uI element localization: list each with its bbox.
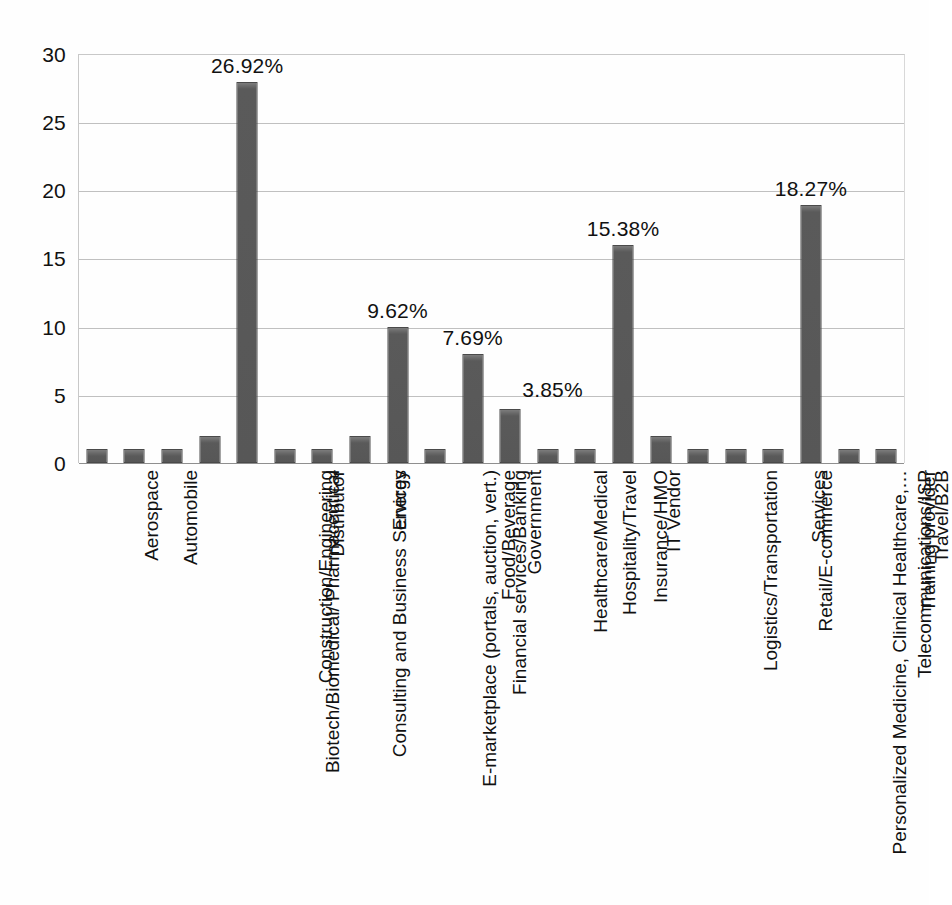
- x-tick-label: Travel/B2B: [933, 377, 952, 470]
- x-tick-label-slot: Services: [755, 470, 793, 900]
- x-tick-label: Logistics/Transportation: [761, 269, 780, 470]
- x-tick-label: Government: [525, 365, 544, 470]
- x-tick-label: Healthcare/Medical: [592, 307, 611, 470]
- x-tick-label: Energy: [390, 410, 409, 470]
- x-tick-label-slot: IT Vendor: [604, 470, 642, 900]
- bar[interactable]: [274, 449, 295, 463]
- bar[interactable]: [349, 436, 370, 463]
- x-tick-label-slot: Food/Beverage: [416, 470, 454, 900]
- x-tick-label-slot: Aerospace: [78, 470, 116, 900]
- x-tick-label-slot: Consulting and Business Services: [228, 470, 266, 900]
- x-tick-label: IT Vendor: [664, 388, 683, 470]
- bar[interactable]: [86, 449, 107, 463]
- x-tick-label-slot: Government: [454, 470, 492, 900]
- x-tick-label-slot: Insurance/HMO: [567, 470, 605, 900]
- bar-slot: [266, 54, 304, 463]
- x-tick-label-slot: Telecommunications/ISP: [792, 470, 830, 900]
- x-tick-label: E-marketplace (portals, auction, vert.): [481, 153, 500, 470]
- y-tick-label: 15: [14, 248, 66, 269]
- bar-slot: [416, 54, 454, 463]
- bar[interactable]: [237, 82, 258, 463]
- bar[interactable]: [725, 449, 746, 463]
- x-tick-label-slot: Construction/Engineering: [191, 470, 229, 900]
- x-tick-label: Hospitality/Travel: [620, 325, 639, 470]
- x-tick-label-slot: Automobile: [116, 470, 154, 900]
- y-tick-label: 10: [14, 317, 66, 338]
- x-tick-label: Food/Beverage: [500, 340, 519, 470]
- bar[interactable]: [425, 449, 446, 463]
- x-tick-label-slot: Training provider: [830, 470, 868, 900]
- bar[interactable]: [161, 449, 182, 463]
- x-tick-label: Distributor: [328, 383, 347, 470]
- x-tick-label: Personalized Medicine, Clinical Healthca…: [890, 86, 909, 470]
- x-tick-label-slot: Energy: [341, 470, 379, 900]
- y-tick-label: 0: [14, 453, 66, 474]
- x-tick-label-slot: Hospitality/Travel: [529, 470, 567, 900]
- x-tick-label-slot: Personalized Medicine, Clinical Healthca…: [679, 470, 717, 900]
- bar-slot: [717, 54, 755, 463]
- x-tick-label-slot: Biotech/Biomedical/ Pharmaceutical: [153, 470, 191, 900]
- x-tick-label-slot: Distributor: [266, 470, 304, 900]
- x-tick-label-slot: Healthcare/Medical: [492, 470, 530, 900]
- x-tick-label-slot: Retail/E-commerce: [717, 470, 755, 900]
- bar-slot: [228, 54, 266, 463]
- y-tick-label: 20: [14, 180, 66, 201]
- x-tick-label-slot: E-marketplace (portals, auction, vert.): [304, 470, 342, 900]
- y-tick-label: 25: [14, 112, 66, 133]
- bar-slot: [78, 54, 116, 463]
- bar[interactable]: [838, 449, 859, 463]
- y-tick-label: 30: [14, 44, 66, 65]
- x-tick-label: Services: [810, 397, 829, 470]
- bar[interactable]: [688, 449, 709, 463]
- x-tick-label: Aerospace: [142, 379, 161, 470]
- bar[interactable]: [199, 436, 220, 463]
- x-tick-label-slot: Logistics/Transportation: [642, 470, 680, 900]
- x-axis-labels: AerospaceAutomobileBiotech/Biomedical/ P…: [78, 470, 905, 900]
- y-tick-label: 5: [14, 385, 66, 406]
- x-tick-label-slot: Travel/B2B: [867, 470, 905, 900]
- x-tick-label-slot: Financial services/Banking: [379, 470, 417, 900]
- bar-slot: [679, 54, 717, 463]
- x-tick-label: Automobile: [182, 375, 201, 470]
